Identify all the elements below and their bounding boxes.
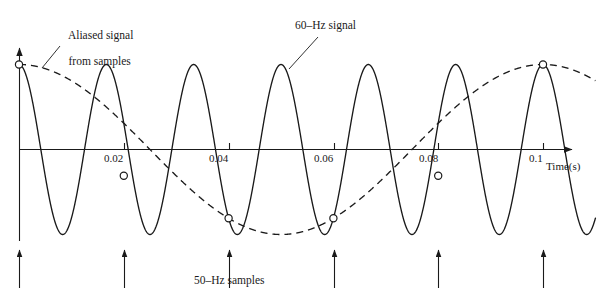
tick-label-0.06: 0.06 [314,152,333,164]
aliased-signal-label: Aliased signal from samples [57,16,133,81]
tick-label-0.08: 0.08 [419,152,438,164]
x-axis-title: Time(s) [546,160,580,172]
signal-label-leader-line [289,37,318,69]
tick-label-0.08-text: 0.08 [419,152,438,164]
figure-canvas: Aliased signal from samples 60–Hz signal… [0,0,604,300]
sample-arrows-group [20,250,544,288]
signal-60hz-label: 60–Hz signal [295,19,356,32]
aliased-signal-label-line2: from samples [69,55,131,67]
x-axis-title-text: Time(s) [546,160,580,172]
sample-marker [435,172,442,179]
tick-label-0.02: 0.02 [104,152,123,164]
sample-point-markers [15,61,546,222]
tick-label-0.02-text: 0.02 [104,152,123,164]
samples-50hz-label: 50–Hz samples [194,274,265,287]
samples-50hz-label-text: 50–Hz samples [194,274,265,286]
signal-60hz-label-text: 60–Hz signal [295,19,356,31]
tick-label-0.04-text: 0.04 [209,152,228,164]
tick-label-0.1-text: 0.1 [529,152,543,164]
sample-marker [539,61,546,68]
sample-marker [15,61,22,68]
tick-label-0.06-text: 0.06 [314,152,333,164]
aliased-signal-label-line1: Aliased signal [68,29,133,41]
sample-marker [330,215,337,222]
tick-label-0.04: 0.04 [209,152,228,164]
sample-marker [120,172,127,179]
tick-label-0.1: 0.1 [529,152,543,164]
sample-marker [225,215,232,222]
